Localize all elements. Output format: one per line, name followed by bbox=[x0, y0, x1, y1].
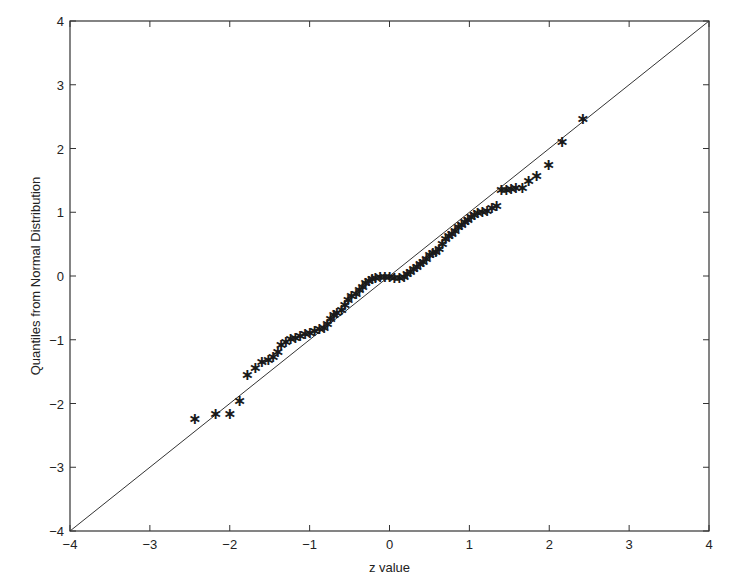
data-point-star-icon: ∗ bbox=[233, 391, 246, 410]
x-tick-label: −1 bbox=[302, 537, 317, 552]
x-tick-label: −3 bbox=[142, 537, 157, 552]
data-point-star-icon: ∗ bbox=[576, 109, 589, 128]
x-tick-label: 2 bbox=[546, 537, 553, 552]
x-tick-label: 4 bbox=[705, 537, 712, 552]
y-tick-label: 4 bbox=[57, 14, 64, 29]
x-tick-label: −2 bbox=[222, 537, 237, 552]
data-point-star-icon: ∗ bbox=[188, 409, 201, 428]
y-tick-label: −1 bbox=[49, 333, 64, 348]
x-tick-label: 1 bbox=[466, 537, 473, 552]
y-tick-label: 1 bbox=[57, 205, 64, 220]
y-tick-label: 0 bbox=[57, 269, 64, 284]
y-axis-label: Quantiles from Normal Distribution bbox=[28, 177, 43, 376]
qq-plot: −4−3−2−101234 −4−3−2−101234 ∗∗∗∗∗∗∗∗∗∗∗∗… bbox=[0, 0, 731, 585]
x-tick-label: −4 bbox=[63, 537, 78, 552]
x-tick-label: 3 bbox=[626, 537, 633, 552]
y-tick-label: −3 bbox=[49, 460, 64, 475]
y-tick-label: 2 bbox=[57, 142, 64, 157]
x-tick-label: 0 bbox=[386, 537, 393, 552]
data-point-star-icon: ∗ bbox=[542, 155, 555, 174]
x-axis-label: z value bbox=[369, 560, 410, 575]
data-point-star-icon: ∗ bbox=[555, 132, 568, 151]
y-tick-label: −2 bbox=[49, 397, 64, 412]
y-tick-label: 3 bbox=[57, 78, 64, 93]
y-tick-label: −4 bbox=[49, 524, 64, 539]
data-point-star-icon: ∗ bbox=[209, 404, 222, 423]
